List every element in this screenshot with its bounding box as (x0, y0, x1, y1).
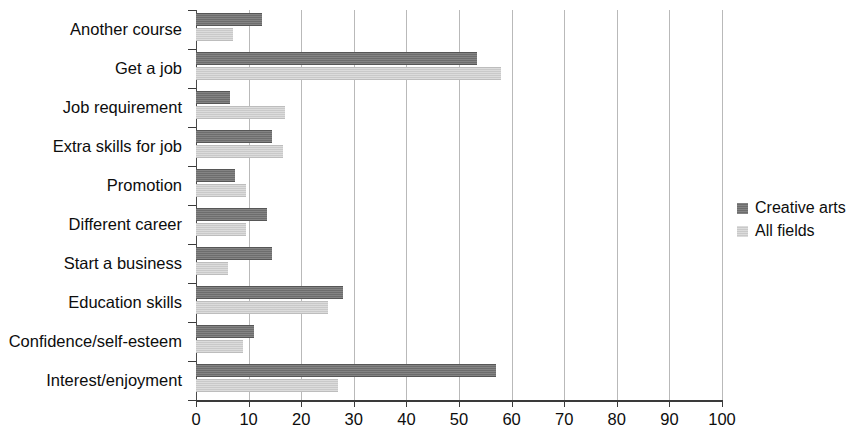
bar (196, 301, 328, 314)
y-axis-label: Job requirement (63, 87, 182, 127)
x-axis-tick-label: 80 (608, 410, 626, 429)
bar (196, 169, 235, 182)
y-axis-label: Confidence/self-esteem (9, 321, 182, 361)
y-axis-tick (188, 10, 196, 11)
bar (196, 130, 272, 143)
bar (196, 340, 243, 353)
plot-area (196, 10, 722, 400)
x-axis-tick-label: 10 (239, 410, 257, 429)
legend-swatch-icon-all-fields (737, 226, 748, 237)
bar-group (196, 166, 722, 205)
bar-group (196, 127, 722, 166)
y-axis-tick (188, 49, 196, 50)
y-axis-tick (188, 400, 196, 401)
y-axis-label: Get a job (115, 48, 182, 88)
y-axis-tick (188, 322, 196, 323)
x-axis-tick-label: 30 (345, 410, 363, 429)
y-axis-category-labels: Another courseGet a jobJob requirementEx… (0, 0, 190, 400)
legend-item-creative-arts: Creative arts (737, 198, 846, 218)
bar (196, 106, 285, 119)
legend-label-all-fields: All fields (755, 222, 815, 240)
y-axis-tick (188, 127, 196, 128)
bar (196, 91, 230, 104)
bar (196, 262, 228, 275)
bar-group (196, 244, 722, 283)
x-axis-tick-label: 0 (191, 410, 200, 429)
x-axis-tick-label: 100 (708, 410, 736, 429)
x-axis-tick (722, 400, 723, 407)
y-axis-label: Different career (69, 204, 182, 244)
bar-group (196, 88, 722, 127)
x-axis-tick-label: 50 (450, 410, 468, 429)
x-axis-tick (406, 400, 407, 407)
bar-group (196, 361, 722, 400)
y-axis-tick (188, 166, 196, 167)
bar (196, 208, 267, 221)
bar-group (196, 49, 722, 88)
y-axis-tick (188, 88, 196, 89)
x-axis-tick (617, 400, 618, 407)
bar (196, 28, 233, 41)
legend-item-all-fields: All fields (737, 221, 846, 241)
bar (196, 184, 246, 197)
y-axis-label: Start a business (64, 243, 182, 283)
x-axis-tick (249, 400, 250, 407)
y-axis-tick (188, 283, 196, 284)
bar (196, 223, 246, 236)
bar-group (196, 10, 722, 49)
x-axis-tick-label: 60 (502, 410, 520, 429)
bar-group (196, 283, 722, 322)
x-axis-tick (354, 400, 355, 407)
gridline (722, 10, 723, 400)
bar (196, 379, 338, 392)
legend-label-creative-arts: Creative arts (755, 199, 846, 217)
bar-group (196, 322, 722, 361)
chart-legend: Creative arts All fields (737, 198, 846, 244)
bar (196, 325, 254, 338)
horizontal-bar-chart: Another courseGet a jobJob requirementEx… (0, 0, 859, 443)
bar (196, 364, 496, 377)
x-axis-tick-label: 20 (292, 410, 310, 429)
y-axis-label: Education skills (68, 282, 182, 322)
x-axis-tick (512, 400, 513, 407)
bar (196, 13, 262, 26)
y-axis-label: Interest/enjoyment (46, 360, 182, 400)
bar (196, 52, 477, 65)
y-axis-tick (188, 205, 196, 206)
x-axis-tick-label: 40 (397, 410, 415, 429)
x-axis-tick (459, 400, 460, 407)
y-axis-label: Another course (70, 9, 182, 49)
x-axis-tick (669, 400, 670, 407)
y-axis-label: Extra skills for job (53, 126, 182, 166)
bar (196, 145, 283, 158)
y-axis-tick (188, 361, 196, 362)
y-axis-label: Promotion (107, 165, 182, 205)
y-axis-tick (188, 244, 196, 245)
x-axis-tick-label: 70 (555, 410, 573, 429)
bar (196, 286, 343, 299)
bar (196, 67, 501, 80)
x-axis-tick (196, 400, 197, 407)
x-axis-tick (564, 400, 565, 407)
x-axis-tick-label: 90 (660, 410, 678, 429)
bar-group (196, 205, 722, 244)
legend-swatch-icon-creative-arts (737, 203, 748, 214)
bar (196, 247, 272, 260)
x-axis-tick (301, 400, 302, 407)
